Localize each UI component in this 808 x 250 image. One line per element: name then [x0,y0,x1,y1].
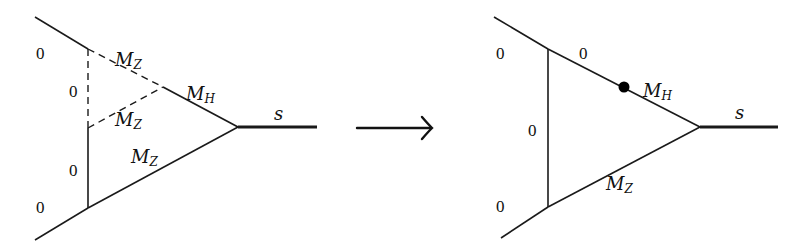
left-label-dashed-vertical: 0 [69,82,78,101]
left-label-external-bottom: 0 [36,198,45,217]
left-solid-bottom-diagonal [88,127,238,208]
left-label-mz-bottom: MZ [130,146,158,169]
left-label-solid-vertical: 0 [69,161,78,180]
left-diagram [35,17,317,240]
right-label-external-bottom: 0 [496,197,505,216]
right-external-bottom-line [501,207,548,238]
right-label-mh: MH [642,80,672,103]
left-labels: 0 0 0 0 MZ MZ MH MZ s [36,44,283,217]
reduction-arrow [357,117,432,139]
feynman-diagram-canvas: 0 0 0 0 MZ MZ MH MZ s 0 0 0 0 [0,0,808,250]
left-label-mh: MH [185,83,215,106]
right-label-external-top: 0 [496,44,505,63]
right-diagram [494,17,778,238]
right-label-s: s [735,102,744,123]
right-label-vertical: 0 [528,121,537,140]
propagator-dot-icon [619,82,630,93]
right-label-top-diagonal-left: 0 [579,44,588,63]
left-label-mz-inner: MZ [114,109,142,132]
left-label-external-top: 0 [36,44,45,63]
left-label-mz-top: MZ [114,49,142,72]
left-label-s: s [274,103,283,124]
right-label-mz: MZ [605,173,633,196]
right-labels: 0 0 0 0 MH MZ s [496,44,744,216]
